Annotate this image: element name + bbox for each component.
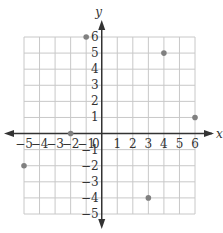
grid-lines — [24, 37, 195, 214]
x-tick-label: 3 — [145, 137, 153, 151]
y-axis-label: y — [94, 5, 102, 19]
y-tick-label: 1 — [91, 110, 99, 124]
x-tick-label: 1 — [113, 137, 121, 151]
y-axis-up-arrow-icon — [98, 20, 105, 30]
data-point — [83, 34, 89, 40]
x-axis-label: x — [216, 127, 223, 141]
y-tick-label: 6 — [91, 30, 99, 44]
x-tick-label: 2 — [129, 137, 137, 151]
data-point — [161, 50, 167, 56]
y-tick-label: −5 — [81, 207, 99, 221]
x-axis-left-arrow-icon — [4, 130, 14, 137]
data-point — [192, 115, 198, 121]
y-tick-label: −2 — [81, 159, 99, 173]
data-point — [146, 195, 152, 201]
data-point — [68, 131, 74, 137]
y-tick-label: −1 — [81, 143, 99, 157]
y-tick-label: 5 — [91, 46, 99, 60]
data-point — [21, 163, 27, 169]
x-tick-label: 4 — [160, 137, 168, 151]
y-tick-label: −4 — [81, 191, 99, 205]
y-tick-label: 4 — [91, 62, 99, 76]
y-tick-label: 3 — [91, 78, 99, 92]
tick-labels: −5−4−3−2−10123456−5−4−3−2−1123456 — [15, 30, 199, 221]
x-tick-label: 6 — [191, 137, 199, 151]
x-axis-right-arrow-icon — [204, 130, 214, 137]
y-tick-label: 2 — [91, 94, 99, 108]
x-tick-label: 5 — [176, 137, 184, 151]
coordinate-plane: xy −5−4−3−2−10123456−5−4−3−2−1123456 — [0, 0, 223, 233]
y-tick-label: −3 — [81, 175, 99, 189]
y-axis-down-arrow-icon — [98, 219, 105, 229]
